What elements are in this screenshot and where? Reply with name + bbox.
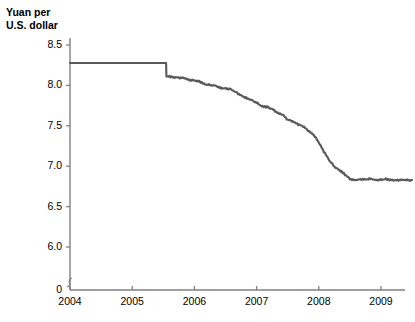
chart-plot-area	[0, 0, 415, 322]
axes-group	[66, 38, 405, 290]
x-axis-tick-label: 2004	[48, 295, 92, 307]
chart-figure: Yuan per U.S. dollar 06.06.57.07.58.08.5…	[0, 0, 415, 322]
y-axis-tick-label: 8.0	[28, 78, 62, 90]
x-axis-tick-label: 2006	[172, 295, 216, 307]
y-axis-tick-label: 8.5	[28, 38, 62, 50]
y-axis-tick-label: 6.5	[28, 200, 62, 212]
y-axis-tick-label: 7.0	[28, 159, 62, 171]
x-axis-tick-label: 2008	[297, 295, 341, 307]
x-axis-tick-label: 2005	[110, 295, 154, 307]
y-axis-tick-label: 7.5	[28, 119, 62, 131]
y-axis-tick-label: 0	[28, 283, 62, 295]
series-line-yuan-per-usd	[70, 63, 412, 181]
y-axis-break-icon	[67, 278, 72, 287]
y-axis-tick-label: 6.0	[28, 240, 62, 252]
x-axis-tick-label: 2007	[235, 295, 279, 307]
x-axis-tick-label: 2009	[359, 295, 403, 307]
data-series-group	[70, 63, 412, 181]
